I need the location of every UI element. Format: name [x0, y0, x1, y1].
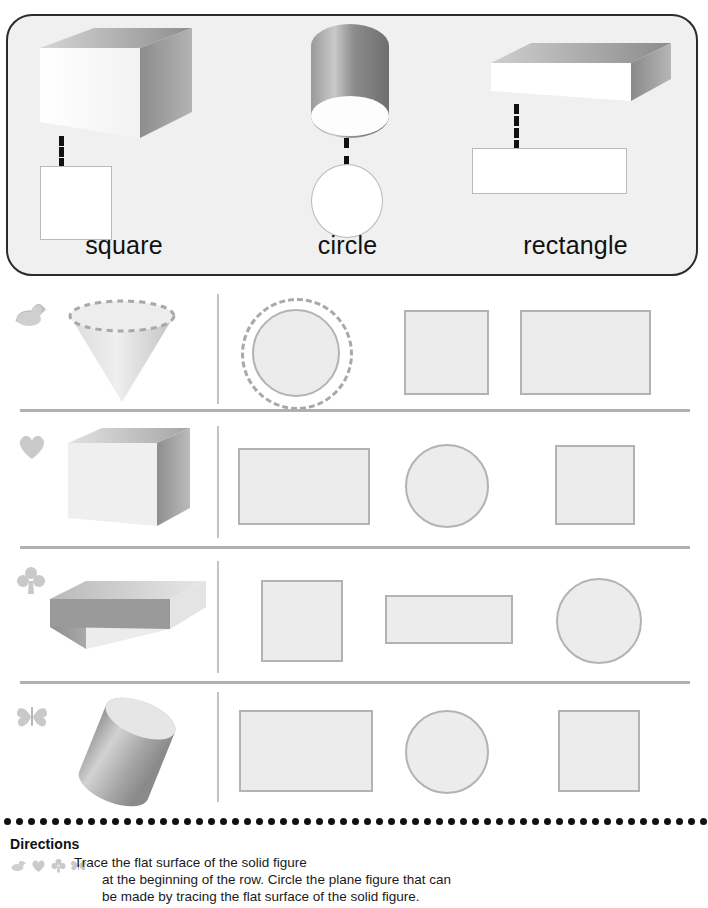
connector-dashed-rectangle	[514, 104, 519, 150]
divider-dot	[364, 818, 371, 825]
divider-dot	[412, 818, 419, 825]
duck-icon	[10, 859, 27, 873]
divider-dot	[400, 818, 407, 825]
divider-dot	[16, 818, 23, 825]
example-label-rectangle: rectangle	[455, 231, 696, 260]
row-divider-vertical	[217, 692, 219, 802]
exercise-row-4	[0, 690, 708, 812]
divider-dot	[184, 818, 191, 825]
row-separator	[20, 681, 690, 684]
divider-dot	[4, 818, 11, 825]
divider-dot	[592, 818, 599, 825]
divider-dot	[436, 818, 443, 825]
answer-choice-square[interactable]	[558, 710, 640, 792]
divider-dot	[28, 818, 35, 825]
divider-dot	[280, 818, 287, 825]
divider-dot	[268, 818, 275, 825]
divider-dot	[616, 818, 623, 825]
divider-dot	[256, 818, 263, 825]
dotted-divider	[4, 818, 704, 828]
exercise-row-2	[0, 420, 708, 550]
plane-figure-rectangle	[472, 148, 627, 194]
row-separator	[20, 409, 690, 412]
answer-choice-square[interactable]	[555, 445, 635, 525]
divider-dot	[352, 818, 359, 825]
directions-line-3: be made by tracing the flat surface of t…	[74, 888, 494, 905]
cube-solid-icon	[32, 26, 222, 146]
cone-solid-icon	[62, 298, 182, 406]
divider-dot	[244, 818, 251, 825]
directions-title: Directions	[10, 836, 79, 852]
divider-dot	[520, 818, 527, 825]
connector-dashed-circle	[344, 138, 349, 166]
answer-choice-rectangle[interactable]	[385, 595, 513, 644]
divider-dot	[472, 818, 479, 825]
duck-icon	[14, 302, 48, 330]
divider-dot	[424, 818, 431, 825]
exercise-row-1	[0, 290, 708, 412]
example-label-square: square	[8, 231, 240, 260]
plane-figure-square	[40, 166, 112, 240]
cube-solid-icon	[62, 426, 197, 534]
divider-dot	[52, 818, 59, 825]
divider-dot	[40, 818, 47, 825]
divider-dot	[124, 818, 131, 825]
divider-dot	[88, 818, 95, 825]
divider-dot	[316, 818, 323, 825]
answer-choice-square[interactable]	[261, 580, 343, 662]
heart-icon	[17, 433, 47, 461]
divider-dot	[532, 818, 539, 825]
divider-dot	[688, 818, 695, 825]
divider-dot	[64, 818, 71, 825]
divider-dot	[232, 818, 239, 825]
divider-dot	[160, 818, 167, 825]
divider-dot	[304, 818, 311, 825]
divider-dot	[460, 818, 467, 825]
divider-dot	[76, 818, 83, 825]
row-divider-vertical	[217, 294, 219, 404]
answer-choice-circle[interactable]	[405, 710, 489, 794]
divider-dot	[100, 818, 107, 825]
divider-dot	[112, 818, 119, 825]
divider-dot	[580, 818, 587, 825]
example-label-circle: circle	[240, 231, 455, 260]
example-item-square: square	[8, 16, 240, 274]
example-item-rectangle: rectangle	[455, 16, 696, 274]
connector-dashed-square	[59, 136, 64, 168]
rectangular-prism-solid-icon	[48, 577, 208, 655]
divider-dot	[568, 818, 575, 825]
heart-icon	[31, 859, 46, 873]
divider-dot	[292, 818, 299, 825]
divider-dot	[208, 818, 215, 825]
divider-dot	[496, 818, 503, 825]
divider-dot	[604, 818, 611, 825]
divider-dot	[664, 818, 671, 825]
example-item-circle: circle	[240, 16, 455, 274]
divider-dot	[328, 818, 335, 825]
plane-figure-circle	[311, 164, 383, 238]
divider-dot	[676, 818, 683, 825]
divider-dot	[700, 818, 707, 825]
divider-dot	[376, 818, 383, 825]
divider-dot	[448, 818, 455, 825]
row-divider-vertical	[217, 561, 219, 673]
example-box: square circle	[6, 14, 698, 276]
answer-choice-circle[interactable]	[405, 444, 489, 528]
cylinder-solid-icon	[295, 22, 405, 146]
answer-choice-rectangle[interactable]	[238, 448, 370, 525]
answer-choice-square[interactable]	[404, 310, 489, 395]
club-icon	[16, 565, 46, 595]
answer-choice-rectangle[interactable]	[239, 710, 373, 792]
row-divider-vertical	[217, 426, 219, 538]
divider-dot	[196, 818, 203, 825]
divider-dot	[652, 818, 659, 825]
answer-choice-rectangle[interactable]	[520, 310, 651, 395]
traced-face-outline	[70, 301, 174, 331]
divider-dot	[340, 818, 347, 825]
divider-dot	[220, 818, 227, 825]
answer-choice-circle[interactable]	[556, 578, 642, 664]
divider-dot	[136, 818, 143, 825]
answer-choice-circle[interactable]	[252, 309, 340, 397]
divider-dot	[484, 818, 491, 825]
divider-dot	[172, 818, 179, 825]
